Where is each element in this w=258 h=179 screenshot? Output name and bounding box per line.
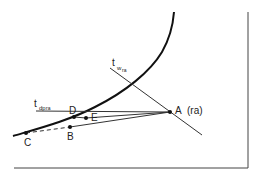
label-c: C: [24, 137, 31, 148]
label-d: D: [69, 105, 76, 116]
label-e: E: [91, 112, 98, 123]
point-a: [168, 110, 172, 114]
label-wet-bulb-subsub: ra: [122, 67, 127, 73]
label-b: B: [67, 131, 74, 142]
line-e-a: [86, 112, 170, 118]
point-e: [84, 116, 88, 120]
label-wet-bulb: t: [112, 57, 115, 68]
label-dew-point-subsub: ra: [46, 105, 51, 111]
psychrometric-diagram: A (ra) B C D E t w ra t dp ra: [0, 0, 258, 179]
dew-point-line: [36, 111, 170, 112]
wet-bulb-line: [110, 68, 202, 135]
point-c: [24, 131, 28, 135]
label-a-suffix: (ra): [187, 105, 203, 116]
label-a: A: [175, 105, 182, 116]
point-b: [68, 125, 72, 129]
label-dew-point: t: [34, 98, 37, 109]
